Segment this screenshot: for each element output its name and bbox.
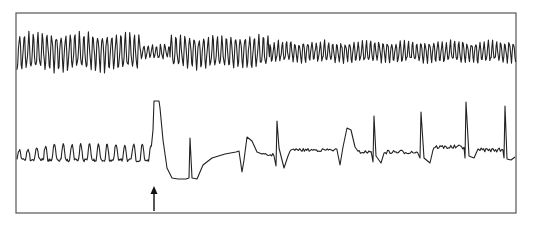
lower-trace (17, 101, 515, 179)
upper-trace (17, 31, 516, 73)
event-arrow-icon (151, 186, 158, 211)
plot-frame (16, 13, 516, 213)
trace-figure (0, 0, 533, 225)
trace-canvas (0, 0, 533, 225)
